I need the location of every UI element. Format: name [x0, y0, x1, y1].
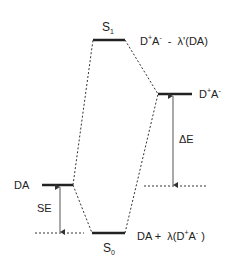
s0-desc-pre: DA + λ(D — [137, 230, 184, 242]
s1-desc-d: D — [140, 35, 148, 47]
s0-desc-post: ) — [198, 230, 205, 242]
s0-description: DA + λ(D+A- ) — [137, 231, 205, 242]
s1-label-main: S — [102, 20, 110, 34]
s1-label: S1 — [102, 21, 114, 33]
s0-label-main: S — [103, 241, 111, 255]
s0-label: S0 — [103, 242, 115, 254]
cs-desc-minus: - — [218, 87, 220, 94]
s1-description: D+A- - λ'(DA) — [140, 36, 208, 47]
da-label: DA — [14, 180, 29, 191]
cs-description: D+A- — [199, 89, 221, 100]
corr-s0-cs — [125, 94, 158, 233]
s0-label-sub: 0 — [111, 249, 115, 256]
corr-da-s1 — [73, 40, 93, 185]
se-label: SE — [37, 203, 52, 214]
de-label: ΔE — [179, 134, 194, 145]
corr-s1-cs — [125, 40, 158, 94]
corr-da-s0 — [73, 185, 92, 233]
s1-label-sub: 1 — [110, 28, 114, 35]
s0-desc-a: A — [188, 230, 195, 242]
s1-desc-rest: - λ'(DA) — [162, 35, 208, 47]
cs-desc-d: D — [199, 88, 207, 100]
